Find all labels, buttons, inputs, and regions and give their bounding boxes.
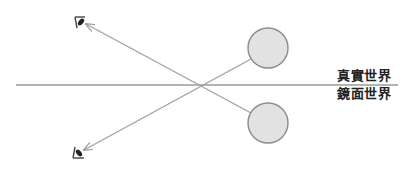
- mirror-eye-icon: [73, 147, 84, 158]
- ray-real-to-mirror-eye: [84, 59, 251, 150]
- mirror-object-circle: [248, 103, 288, 143]
- real-eye-icon: [75, 17, 85, 28]
- mirror-world-label: 鏡面世界: [337, 87, 391, 101]
- real-object-circle: [248, 28, 288, 68]
- real-world-label: 真實世界: [337, 69, 391, 83]
- ray-mirror-to-real-eye: [86, 24, 251, 113]
